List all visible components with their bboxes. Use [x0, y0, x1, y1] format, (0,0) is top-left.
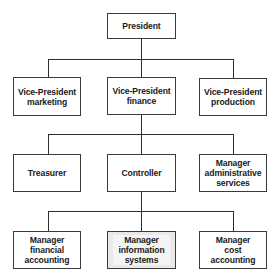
node-vp-marketing: Vice-President marketing: [13, 77, 81, 116]
connector-to-mgr-fin-acct: [48, 211, 49, 231]
node-label: Treasurer: [28, 168, 66, 178]
node-mgr-financial-accounting: Manager financial accounting: [13, 231, 81, 269]
node-label: Manager administrative services: [205, 158, 262, 188]
connector-to-vp-finance: [141, 59, 142, 77]
node-label: Vice-President production: [204, 87, 262, 107]
connector-vp-finance-down: [141, 115, 142, 134]
node-label: Vice-President marketing: [18, 87, 76, 107]
node-treasurer: Treasurer: [13, 154, 81, 192]
node-vp-finance: Vice-President finance: [107, 77, 176, 115]
node-mgr-information-systems: Manager information systems: [107, 231, 176, 269]
node-mgr-cost-accounting: Manager cost accounting: [199, 231, 267, 269]
connector-president-down: [141, 39, 142, 59]
connector-controller-down: [141, 192, 142, 211]
connector-to-mgr-admin: [233, 134, 234, 154]
node-label: Manager cost accounting: [211, 235, 256, 265]
connector-to-treasurer: [48, 134, 49, 154]
connector-to-vp-marketing: [48, 59, 49, 77]
node-controller: Controller: [107, 154, 176, 192]
node-label: Manager information systems: [118, 235, 164, 265]
node-vp-production: Vice-President production: [199, 78, 267, 116]
node-label: Manager financial accounting: [25, 235, 70, 265]
connector-to-mgr-cost-acct: [233, 211, 234, 231]
node-president: President: [107, 13, 176, 39]
node-label: President: [122, 21, 160, 31]
connector-to-mgr-info-sys: [141, 211, 142, 231]
connector-to-vp-production: [233, 59, 234, 78]
connector-to-controller: [141, 134, 142, 154]
node-label: Controller: [121, 168, 161, 178]
node-label: Vice-President finance: [112, 86, 170, 106]
node-mgr-admin-services: Manager administrative services: [199, 154, 267, 192]
